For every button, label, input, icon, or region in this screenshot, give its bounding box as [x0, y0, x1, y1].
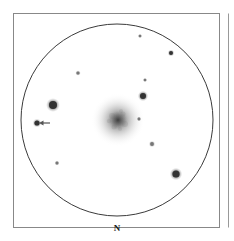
star-dot	[34, 120, 39, 125]
star-dot	[56, 162, 59, 165]
galaxy-mottle	[119, 109, 123, 113]
star-dot	[169, 51, 173, 55]
field-star	[75, 70, 81, 76]
star-dot	[172, 170, 179, 177]
eyepiece-field-sketch: N	[0, 0, 234, 241]
star-dot	[49, 101, 57, 109]
galaxy-mottle	[112, 125, 117, 130]
field-star	[168, 50, 175, 57]
galaxy-mottle	[118, 127, 122, 131]
field-star	[149, 141, 156, 148]
sketch-canvas: N	[0, 0, 234, 241]
galaxy-mottle	[122, 121, 128, 127]
star-dot	[139, 35, 142, 38]
star-dot	[76, 71, 79, 74]
field-star	[46, 98, 60, 112]
field-star	[143, 78, 148, 83]
star-dot	[140, 93, 146, 99]
field-star	[170, 168, 183, 181]
field-star	[137, 117, 142, 122]
field-star	[138, 34, 143, 39]
galaxy-mottle	[107, 119, 111, 123]
galaxy-mottle	[109, 113, 115, 119]
field-star	[138, 91, 149, 102]
compass-north-label: N	[114, 223, 121, 233]
star-dot	[144, 79, 147, 82]
field-star	[54, 160, 59, 165]
star-dot	[150, 142, 154, 146]
star-dot	[138, 118, 141, 121]
